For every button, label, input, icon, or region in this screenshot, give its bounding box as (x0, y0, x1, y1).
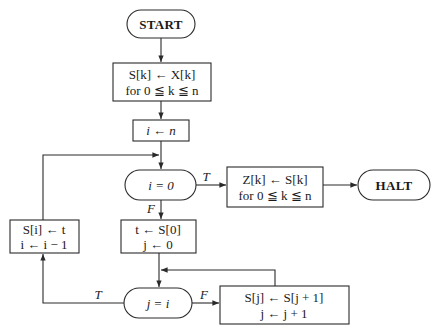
test-j-false-label: F (199, 287, 209, 302)
shift-line1: S[j] ← S[j + 1] (245, 290, 324, 305)
init-t-j-box: t ← S[0] j ← 0 (121, 220, 196, 253)
arrow-test-j-true (43, 254, 124, 303)
test-i-label: i = 0 (148, 178, 174, 193)
init-copy-box: S[k] ← X[k] for 0 ≦ k ≦ n (113, 63, 211, 101)
store-dec-line2: i ← i − 1 (20, 237, 67, 252)
output-copy-line2: for 0 ≦ k ≦ n (239, 188, 312, 203)
init-t-j-line1: t ← S[0] (135, 222, 181, 237)
init-i-label: i ← n (146, 123, 176, 138)
init-copy-line2: for 0 ≦ k ≦ n (126, 83, 199, 98)
init-t-j-line2: j ← 0 (142, 237, 173, 252)
shift-line2: j ← j + 1 (259, 306, 307, 321)
test-i-true-label: T (202, 169, 210, 184)
start-terminal: START (127, 10, 195, 38)
output-copy-line1: Z[k] ← S[k] (243, 172, 308, 187)
store-dec-line1: S[i] ← t (23, 222, 66, 237)
init-copy-line1: S[k] ← X[k] (129, 67, 195, 82)
store-dec-box: S[i] ← t i ← i − 1 (10, 220, 79, 253)
halt-label: HALT (376, 178, 413, 193)
test-j-true-label: T (94, 287, 102, 302)
arrow-loop-back-inner (161, 270, 275, 286)
test-j-decision: j = i (124, 288, 192, 318)
halt-terminal: HALT (358, 170, 430, 200)
output-copy-box: Z[k] ← S[k] for 0 ≦ k ≦ n (227, 167, 323, 207)
start-label: START (139, 17, 182, 32)
test-i-decision: i = 0 (125, 170, 196, 200)
shift-box: S[j] ← S[j + 1] j ← j + 1 (220, 286, 349, 324)
flowchart: START S[k] ← X[k] for 0 ≦ k ≦ n i ← n i … (0, 0, 437, 335)
init-i-box: i ← n (133, 120, 189, 141)
test-j-label: j = i (145, 296, 170, 311)
test-i-false-label: F (146, 201, 156, 216)
